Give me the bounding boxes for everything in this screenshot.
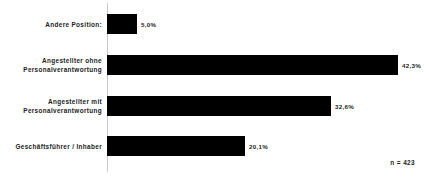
category-label: Angestellter ohne Personalverantwortung (0, 56, 107, 74)
category-label: Angestellter mit Personalverantwortung (0, 97, 107, 115)
bar-value-label: 32,6% (335, 103, 354, 110)
bar-chart: Andere Position: 5,0% Angestellter ohne … (0, 0, 429, 178)
bar-segment (107, 96, 331, 116)
bar-row: Geschäftsführer / Inhaber 20,1% (0, 136, 429, 156)
bar-row: Angestellter ohne Personalverantwortung … (0, 55, 429, 75)
bar-track: 32,6% (107, 96, 429, 116)
bar-value-label: 5,0% (141, 21, 156, 28)
sample-size-annotation: n = 423 (390, 159, 415, 166)
bar-row: Angestellter mit Personalverantwortung 3… (0, 96, 429, 116)
bar-segment (107, 55, 398, 75)
bar-segment (107, 14, 137, 34)
bar-row: Andere Position: 5,0% (0, 14, 429, 34)
bar-track: 20,1% (107, 136, 429, 156)
bar-segment (107, 136, 245, 156)
category-label: Andere Position: (0, 20, 107, 29)
bar-value-label: 42,3% (402, 62, 421, 69)
category-label: Geschäftsführer / Inhaber (0, 142, 107, 151)
bar-track: 5,0% (107, 14, 429, 34)
bar-value-label: 20,1% (249, 143, 268, 150)
bar-track: 42,3% (107, 55, 429, 75)
